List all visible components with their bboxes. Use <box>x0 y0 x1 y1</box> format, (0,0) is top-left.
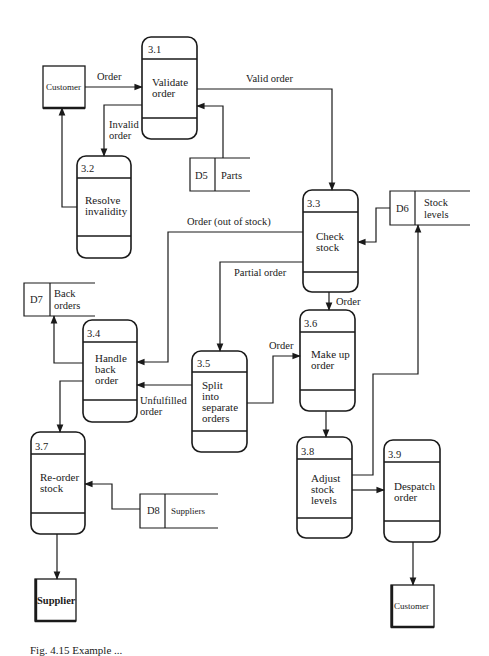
process-3-9: 3.9 Despatch order <box>384 440 440 542</box>
process-number: 3.7 <box>35 441 48 452</box>
process-label: order <box>311 359 335 371</box>
process-number: 3.4 <box>87 328 101 339</box>
flow-resolve-to-customer <box>62 108 77 207</box>
store-label: Back <box>54 288 76 299</box>
store-id: D8 <box>147 505 160 516</box>
flow-valid-order: Valid order <box>197 73 332 190</box>
external-entity-customer-bottom: Customer <box>391 585 434 627</box>
flow-label: Order <box>269 340 294 351</box>
flow-label: Invalid <box>109 119 139 130</box>
data-store-d6-stock-levels: D6 Stock levels <box>390 191 470 225</box>
process-number: 3.5 <box>197 358 210 369</box>
data-store-d7-back-orders: D7 Back orders <box>24 283 95 316</box>
flow-label: Order <box>97 71 122 82</box>
flow-check-to-makeup: Order <box>329 292 361 310</box>
process-number: 3.2 <box>81 163 94 174</box>
flow-invalid-order: Invalid order <box>104 105 142 156</box>
process-label: order <box>95 374 119 386</box>
entity-label: Supplier <box>37 595 76 606</box>
process-3-2: 3.2 Resolve invalidity <box>77 156 131 258</box>
store-id: D7 <box>30 294 43 305</box>
process-3-1: 3.1 Validate order <box>142 37 197 139</box>
process-3-3: 3.3 Check stock <box>303 190 358 292</box>
process-number: 3.6 <box>304 318 317 329</box>
flow-suppliers-to-reorder <box>85 484 140 509</box>
data-store-d8-suppliers: D8 Suppliers <box>140 494 218 528</box>
process-label: stock <box>316 241 340 253</box>
entity-label: Customer <box>46 82 81 92</box>
process-label: invalidity <box>85 205 128 217</box>
flow-adjust-to-stock-levels <box>352 225 418 475</box>
flow-label: Unfulfilled <box>140 395 187 406</box>
store-label: orders <box>54 300 80 311</box>
flow-partial-order: Partial order <box>220 262 303 351</box>
flow-parts-to-validate <box>197 106 223 158</box>
flow-split-to-makeup: Order <box>247 340 300 403</box>
process-label: levels <box>311 494 337 506</box>
flow-handle-to-back-orders <box>54 316 83 363</box>
flow-handle-to-reorder <box>60 381 83 432</box>
flow-label: order <box>140 406 163 417</box>
flow-label: Valid order <box>246 73 293 84</box>
flow-label: Order (out of stock) <box>187 216 271 228</box>
store-label: Parts <box>221 170 242 181</box>
flow-unfulfilled-order: Unfulfilled order <box>137 385 192 417</box>
external-entity-customer-top: Customer <box>43 66 85 108</box>
store-id: D6 <box>396 203 409 214</box>
store-label: Stock <box>424 197 449 208</box>
process-number: 3.8 <box>301 446 314 457</box>
process-3-4: 3.4 Handle back order <box>83 320 137 422</box>
process-number: 3.1 <box>148 44 161 55</box>
figure-caption: Fig. 4.15 Example ... <box>30 644 122 656</box>
process-3-6: 3.6 Make up order <box>300 310 355 411</box>
flow-label: order <box>109 130 132 141</box>
process-label: order <box>394 491 418 503</box>
process-number: 3.9 <box>388 449 401 460</box>
external-entity-supplier: Supplier <box>35 579 76 621</box>
process-number: 3.3 <box>307 198 320 209</box>
process-3-7: 3.7 Re-order stock <box>31 432 85 534</box>
flow-label: Order <box>336 296 361 307</box>
store-id: D5 <box>195 170 208 181</box>
process-label: order <box>152 87 176 99</box>
store-label: Suppliers <box>171 506 205 516</box>
entity-label: Customer <box>394 601 429 611</box>
process-3-8: 3.8 Adjust stock levels <box>297 437 352 538</box>
flow-customer-to-validate: Order <box>85 71 142 87</box>
process-label: orders <box>202 412 230 424</box>
flow-stock-levels-to-check-stock <box>358 208 390 242</box>
process-3-5: 3.5 Split into separate orders <box>192 351 247 452</box>
process-label: stock <box>40 482 64 494</box>
data-store-d5-parts: D5 Parts <box>190 158 250 191</box>
store-label: levels <box>424 209 449 220</box>
flow-label: Partial order <box>234 267 287 278</box>
